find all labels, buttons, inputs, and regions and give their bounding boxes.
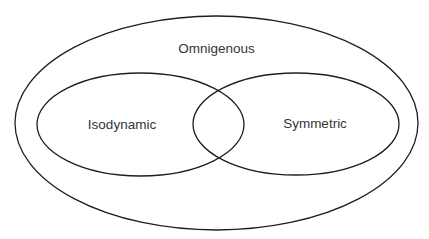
venn-diagram: Omnigenous Isodynamic Symmetric (0, 0, 429, 239)
isodynamic-label: Isodynamic (88, 117, 157, 132)
venn-diagram-canvas: Omnigenous Isodynamic Symmetric (0, 0, 429, 239)
symmetric-label: Symmetric (283, 116, 347, 131)
omnigenous-label: Omnigenous (178, 41, 255, 56)
